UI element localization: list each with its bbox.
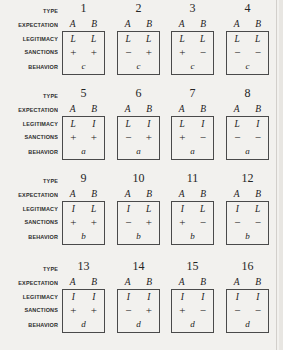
type-cell: 11ABIL+−b xyxy=(171,170,214,255)
sanctions-row: ++ xyxy=(63,131,104,143)
legitimacy-row: LI xyxy=(227,118,268,130)
type-number: 5 xyxy=(62,86,105,100)
type-block: TYPEEXPECTATIONLEGITIMACYSANCTIONSBEHAVI… xyxy=(0,85,283,170)
expectation-actor: B xyxy=(248,103,270,115)
type-box: LI−+a xyxy=(117,116,160,160)
behavior-value: a xyxy=(118,145,159,157)
legitimacy-value: L xyxy=(227,33,248,45)
legitimacy-value: I xyxy=(193,118,214,130)
type-block: TYPEEXPECTATIONLEGITIMACYSANCTIONSBEHAVI… xyxy=(0,258,283,343)
type-number: 3 xyxy=(171,1,214,15)
sanctions-value: − xyxy=(227,304,248,316)
expectation-row: AB xyxy=(226,103,269,115)
legitimacy-value: L xyxy=(193,33,214,45)
expectation-actor: B xyxy=(84,276,106,288)
type-number: 8 xyxy=(226,86,269,100)
legitimacy-row: LI xyxy=(172,118,213,130)
sanctions-value: + xyxy=(139,216,160,228)
legitimacy-value: I xyxy=(63,291,84,303)
legitimacy-value: L xyxy=(63,118,84,130)
expectation-row: AB xyxy=(171,188,214,200)
sanctions-row: −+ xyxy=(118,131,159,143)
behavior-value: d xyxy=(63,318,104,330)
legitimacy-value: I xyxy=(248,291,269,303)
expectation-actor: A xyxy=(226,276,248,288)
sanctions-row: −− xyxy=(227,131,268,143)
type-number: 16 xyxy=(226,259,269,273)
legitimacy-value: L xyxy=(248,33,269,45)
behavior-value: b xyxy=(118,230,159,242)
type-number: 1 xyxy=(62,1,105,15)
sanctions-value: − xyxy=(248,216,269,228)
sanctions-value: − xyxy=(227,216,248,228)
sanctions-value: − xyxy=(118,46,139,58)
expectation-actor: B xyxy=(139,18,161,30)
expectation-actor: B xyxy=(84,103,106,115)
expectation-row: AB xyxy=(62,188,105,200)
sanctions-value: − xyxy=(118,304,139,316)
type-cell: 8ABLI−−a xyxy=(226,85,269,170)
expectation-actor: B xyxy=(139,188,161,200)
legitimacy-row: LI xyxy=(118,118,159,130)
expectation-actor: B xyxy=(248,188,270,200)
behavior-value: a xyxy=(63,145,104,157)
type-number: 14 xyxy=(117,259,160,273)
legitimacy-value: L xyxy=(248,203,269,215)
row-label-type: TYPE xyxy=(6,7,58,14)
sanctions-row: ++ xyxy=(63,46,104,58)
expectation-actor: A xyxy=(117,103,139,115)
sanctions-value: − xyxy=(193,131,214,143)
expectation-actor: A xyxy=(226,18,248,30)
sanctions-value: + xyxy=(139,131,160,143)
expectation-actor: A xyxy=(62,188,84,200)
type-cell: 1ABLL++c xyxy=(62,0,105,85)
sanctions-value: + xyxy=(139,46,160,58)
legitimacy-value: L xyxy=(118,118,139,130)
type-cell: 9ABIL++b xyxy=(62,170,105,255)
expectation-actor: B xyxy=(84,188,106,200)
behavior-value: c xyxy=(63,60,104,72)
sanctions-value: + xyxy=(172,304,193,316)
type-box: IL+−b xyxy=(171,201,214,245)
type-box: LI−−a xyxy=(226,116,269,160)
row-label-expectation: EXPECTATION xyxy=(6,106,58,113)
legitimacy-value: I xyxy=(139,118,160,130)
type-box: II−+d xyxy=(117,289,160,333)
sanctions-row: ++ xyxy=(63,216,104,228)
sanctions-value: − xyxy=(118,216,139,228)
legitimacy-row: II xyxy=(63,291,104,303)
behavior-value: b xyxy=(63,230,104,242)
expectation-row: AB xyxy=(62,276,105,288)
row-label-sanctions: SANCTIONS xyxy=(6,306,58,313)
sanctions-value: − xyxy=(227,131,248,143)
sanctions-value: − xyxy=(193,216,214,228)
legitimacy-row: II xyxy=(227,291,268,303)
row-label-column: TYPEEXPECTATIONLEGITIMACYSANCTIONSBEHAVI… xyxy=(0,258,58,343)
legitimacy-value: L xyxy=(172,118,193,130)
expectation-actor: B xyxy=(139,276,161,288)
row-label-expectation: EXPECTATION xyxy=(6,279,58,286)
type-box: II−−d xyxy=(226,289,269,333)
legitimacy-row: LI xyxy=(63,118,104,130)
sanctions-row: −− xyxy=(227,216,268,228)
row-label-column: TYPEEXPECTATIONLEGITIMACYSANCTIONSBEHAVI… xyxy=(0,0,58,85)
legitimacy-row: LL xyxy=(172,33,213,45)
legitimacy-value: I xyxy=(118,203,139,215)
sanctions-value: + xyxy=(84,46,105,58)
expectation-row: AB xyxy=(62,18,105,30)
expectation-actor: B xyxy=(84,18,106,30)
legitimacy-row: IL xyxy=(227,203,268,215)
expectation-row: AB xyxy=(171,276,214,288)
expectation-row: AB xyxy=(226,188,269,200)
legitimacy-value: I xyxy=(63,203,84,215)
sanctions-value: − xyxy=(193,304,214,316)
type-number: 4 xyxy=(226,1,269,15)
sanctions-row: +− xyxy=(172,131,213,143)
expectation-actor: A xyxy=(117,188,139,200)
type-box: LL+−c xyxy=(171,31,214,75)
legitimacy-row: IL xyxy=(63,203,104,215)
type-box: LI+−a xyxy=(171,116,214,160)
row-label-behavior: BEHAVIOR xyxy=(6,321,58,328)
legitimacy-row: IL xyxy=(172,203,213,215)
expectation-actor: B xyxy=(139,103,161,115)
